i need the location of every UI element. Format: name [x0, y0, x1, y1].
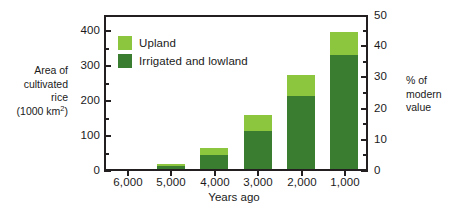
y2-axis-tick-label: 10	[374, 134, 404, 145]
y2-axis-tick-major	[361, 15, 368, 17]
y-axis-tick-major	[104, 100, 111, 102]
bar-stack[interactable]	[157, 164, 185, 169]
y-axis-tick-label: 300	[70, 60, 100, 71]
bar-segment-lowland[interactable]	[244, 131, 272, 169]
y-axis-tick-minor	[104, 153, 109, 155]
y2-axis-tick-minor	[363, 154, 368, 156]
y-axis-tick-label: 100	[70, 130, 100, 141]
y-axis-label-left-line4: (1000 km	[17, 105, 61, 117]
y2-axis-tick-label: 0	[374, 165, 404, 176]
y-axis-label-left-line1: Area of	[34, 64, 68, 76]
bar-segment-lowland[interactable]	[200, 155, 228, 169]
y-axis-label-left-line2: cultivated	[24, 78, 68, 90]
bar-segment-lowland[interactable]	[330, 55, 358, 169]
y-axis-tick-major	[104, 65, 111, 67]
legend-swatch-lowland	[118, 54, 132, 68]
y-axis-tick-minor	[104, 48, 109, 50]
y-axis-label-right-line2: modern	[406, 88, 442, 100]
bar-segment-upland[interactable]	[287, 75, 315, 96]
y-axis-label-right-line1: % of	[406, 74, 427, 86]
y-axis-label-left-paren: )	[65, 105, 69, 117]
bar-stack[interactable]	[244, 115, 272, 169]
legend-swatch-upland	[118, 36, 132, 50]
x-axis-label: Years ago	[174, 191, 294, 203]
y-axis-tick-major	[104, 170, 111, 172]
y2-axis-tick-minor	[363, 92, 368, 94]
bar-stack[interactable]	[287, 75, 315, 169]
bar-segment-upland[interactable]	[200, 148, 228, 155]
y-axis-tick-minor	[104, 83, 109, 85]
y-axis-tick-label: 0	[70, 165, 100, 176]
bar-slot	[279, 17, 322, 169]
y2-axis-tick-label: 20	[374, 103, 404, 114]
y2-axis-tick-minor	[363, 30, 368, 32]
chart-legend: Upland Irrigated and lowland	[118, 36, 248, 72]
y-axis-tick-label: 200	[70, 95, 100, 106]
y2-axis-tick-major	[361, 139, 368, 141]
legend-item-lowland[interactable]: Irrigated and lowland	[118, 54, 248, 68]
y2-axis-tick-label: 40	[374, 40, 404, 51]
y-axis-label-left: Area of cultivated rice (1000 km2)	[2, 64, 68, 118]
y2-axis-tick-minor	[363, 123, 368, 125]
y-axis-label-left-line3: rice	[51, 91, 68, 103]
y-axis-tick-major	[104, 135, 111, 137]
bar-segment-lowland[interactable]	[157, 166, 185, 169]
bar-segment-lowland[interactable]	[287, 96, 315, 169]
legend-label-upland: Upland	[139, 37, 176, 50]
legend-label-lowland: Irrigated and lowland	[139, 55, 248, 68]
y-axis-label-right-line3: value	[406, 101, 431, 113]
x-axis-tick-label: 1,000	[315, 176, 375, 188]
y-axis-label-right: % of modern value	[406, 74, 458, 115]
bar-segment-upland[interactable]	[330, 32, 358, 55]
y2-axis-tick-major	[361, 108, 368, 110]
y2-axis-tick-major	[361, 45, 368, 47]
y2-axis-tick-label: 50	[374, 10, 404, 21]
bar-stack[interactable]	[330, 32, 358, 169]
bar-slot	[323, 17, 366, 169]
y2-axis-tick-major	[361, 170, 368, 172]
y2-axis-tick-minor	[363, 61, 368, 63]
y-axis-tick-major	[104, 30, 111, 32]
legend-item-upland[interactable]: Upland	[118, 36, 248, 50]
chart-container: Area of cultivated rice (1000 km2) % of …	[0, 0, 460, 211]
y2-axis-tick-major	[361, 76, 368, 78]
y-axis-tick-label: 400	[70, 25, 100, 36]
bar-segment-upland[interactable]	[244, 115, 272, 131]
y-axis-tick-minor	[104, 118, 109, 120]
bar-stack[interactable]	[200, 148, 228, 169]
y-axis-tick-minor	[104, 15, 109, 17]
y2-axis-tick-label: 30	[374, 71, 404, 82]
